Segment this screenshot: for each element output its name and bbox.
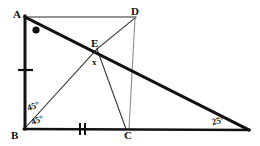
angle-label-e-x: x <box>92 58 97 67</box>
vertex-label-B: B <box>11 130 18 141</box>
segment-ED <box>97 18 135 49</box>
geometry-diagram-canvas: A D B C E 45° 45° x 25° <box>0 0 260 146</box>
vertex-label-C: C <box>124 130 132 141</box>
vertex-label-E: E <box>91 38 98 49</box>
segment-BF <box>24 129 249 130</box>
vertex-label-A: A <box>13 9 21 20</box>
vertex-label-D: D <box>131 6 139 17</box>
angle-dot-A-icon <box>32 26 39 33</box>
segment-AF <box>25 17 249 130</box>
